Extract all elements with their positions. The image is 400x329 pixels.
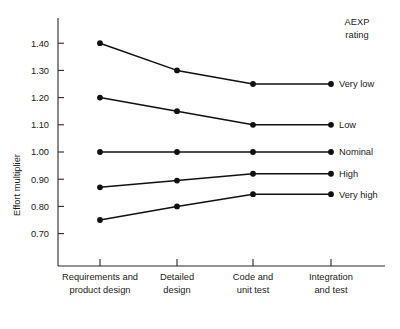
data-point <box>97 217 103 223</box>
series-line-very-low <box>100 43 331 84</box>
y-axis-tick-label: 0.80 <box>31 202 49 212</box>
data-point <box>174 149 180 155</box>
series-label-nominal: Nominal <box>339 147 373 157</box>
data-point <box>174 108 180 114</box>
y-axis-tick-label: 1.20 <box>31 93 49 103</box>
x-axis-tick-label: Detaileddesign <box>160 272 194 295</box>
y-axis-tick-label: 1.10 <box>31 120 49 130</box>
series-label-very-high: Very high <box>339 190 378 200</box>
data-point <box>328 171 334 177</box>
x-axis-tick-label: Code andunit test <box>233 272 273 295</box>
data-point <box>250 191 256 197</box>
series-label-high: High <box>339 169 358 179</box>
data-point <box>328 81 334 87</box>
chart-container: 0.700.800.901.001.101.201.301.40Effort m… <box>0 0 400 329</box>
y-axis-tick-label: 1.30 <box>31 66 49 76</box>
data-point <box>97 40 103 46</box>
data-point <box>328 191 334 197</box>
data-point <box>250 122 256 128</box>
x-axis-tick-label: Requirements andproduct design <box>62 272 138 295</box>
series-line-high <box>100 174 331 188</box>
line-chart: 0.700.800.901.001.101.201.301.40Effort m… <box>0 0 400 329</box>
series-line-low <box>100 98 331 125</box>
data-point <box>174 68 180 74</box>
y-axis-tick-label: 0.90 <box>31 175 49 185</box>
data-point <box>328 122 334 128</box>
series-line-very-high <box>100 194 331 220</box>
series-label-low: Low <box>339 120 356 130</box>
data-point <box>328 149 334 155</box>
data-point <box>97 184 103 190</box>
data-point <box>174 178 180 184</box>
data-point <box>250 149 256 155</box>
data-point <box>97 95 103 101</box>
data-point <box>97 149 103 155</box>
y-axis-tick-label: 1.40 <box>31 39 49 49</box>
x-axis-tick-label: Integrationand test <box>309 272 353 295</box>
y-axis-tick-label: 0.70 <box>31 229 49 239</box>
y-axis-title: Effort multiplier <box>12 154 22 216</box>
data-point <box>174 204 180 210</box>
series-label-very-low: Very low <box>339 79 374 89</box>
legend-title: AEXPrating <box>345 17 370 40</box>
y-axis-tick-label: 1.00 <box>31 147 49 157</box>
data-point <box>250 171 256 177</box>
data-point <box>250 81 256 87</box>
